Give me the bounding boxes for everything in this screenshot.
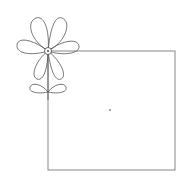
- leaf-right: [48, 84, 66, 93]
- petal-bottom-left: [34, 51, 48, 79]
- flower: [17, 18, 79, 100]
- petal-bottom-right: [48, 51, 64, 79]
- petal-top-left: [31, 18, 49, 51]
- petal-top-right: [48, 18, 67, 51]
- square-outline: [48, 51, 175, 170]
- center-dot: [109, 109, 111, 111]
- petal-right: [48, 41, 79, 54]
- leaf-left: [30, 84, 48, 93]
- petal-left: [17, 40, 48, 54]
- drawing-canvas: [0, 0, 184, 184]
- flower-center-dot: [47, 50, 49, 52]
